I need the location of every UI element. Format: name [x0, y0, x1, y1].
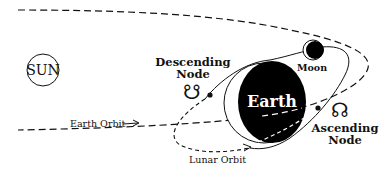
moon-label: Moon: [297, 62, 327, 73]
lunar-nodes-diagram: SUN Earth Moon Descending Node ☋: [0, 0, 390, 175]
sun-label: SUN: [26, 62, 60, 78]
ascending-node-icon: ☊: [331, 98, 349, 122]
descending-node-dot: [207, 92, 212, 97]
earth-label: Earth: [247, 92, 297, 111]
descending-node: Descending Node ☋: [155, 55, 230, 104]
ascending-node-label-line2: Node: [328, 133, 362, 147]
earth: Earth: [224, 61, 306, 143]
earth-orbit-label: Earth Orbit: [70, 118, 126, 129]
earth-orbit-arrow-icon: [123, 120, 139, 126]
descending-node-icon: ☋: [183, 80, 201, 104]
moon: Moon: [297, 40, 327, 73]
ascending-node: ☊ Ascending Node: [311, 98, 379, 147]
moon-disc: [306, 41, 324, 59]
lunar-orbit-label: Lunar Orbit: [189, 154, 246, 165]
sun: SUN: [26, 54, 60, 86]
lunar-orbit-arrow-icon: [243, 144, 251, 151]
ascending-node-dot: [315, 105, 320, 110]
descending-node-label-line2: Node: [176, 67, 210, 81]
